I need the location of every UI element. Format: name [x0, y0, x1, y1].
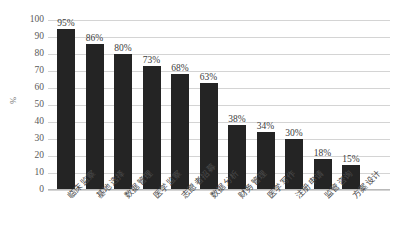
- bar-slot: 18%: [309, 20, 338, 190]
- x-label-slot: 监管咨询: [309, 192, 338, 250]
- bar-slot: 80%: [109, 20, 138, 190]
- plot-area: 95%86%80%73%68%63%38%34%30%18%15%: [48, 20, 390, 190]
- y-axis-tick: 30: [18, 134, 44, 144]
- y-axis-tick: 70: [18, 66, 44, 76]
- bar-slot: 34%: [252, 20, 281, 190]
- x-label-slot: 临床监察: [52, 192, 81, 250]
- bar-slot: 38%: [223, 20, 252, 190]
- bar-series: 95%86%80%73%68%63%38%34%30%18%15%: [48, 20, 390, 190]
- x-label-slot: 数据分析: [195, 192, 224, 250]
- bar-slot: 95%: [52, 20, 81, 190]
- x-label-slot: 注册申请: [280, 192, 309, 250]
- y-axis-title: %: [9, 90, 18, 112]
- y-axis-tick: 20: [18, 151, 44, 161]
- bar-value-label: 15%: [331, 154, 371, 164]
- x-label-slot: 医学监察: [138, 192, 167, 250]
- y-axis-tick-labels: 1009080706050403020100: [18, 20, 44, 190]
- x-label-slot: 医学写作: [252, 192, 281, 250]
- y-axis-tick: 40: [18, 117, 44, 127]
- y-axis-tick: 50: [18, 100, 44, 110]
- bar-chart: % 1009080706050403020100 95%86%80%73%68%…: [0, 0, 404, 252]
- x-label-slot: 财务管理: [223, 192, 252, 250]
- x-axis-category-labels: 临床监察基地选择数据管理医学监察志愿者招募数据分析财务管理医学写作注册申请监管咨…: [48, 192, 390, 252]
- bar-slot: 73%: [138, 20, 167, 190]
- y-axis-tick: 10: [18, 168, 44, 178]
- bar-slot: 68%: [166, 20, 195, 190]
- bar-slot: 15%: [337, 20, 366, 190]
- x-label-slot: 数据管理: [109, 192, 138, 250]
- x-label-slot: 志愿者招募: [166, 192, 195, 250]
- x-label-slot: 方案设计: [337, 192, 366, 250]
- y-axis-tick: 0: [18, 185, 44, 195]
- bar[interactable]: [86, 44, 104, 190]
- bar[interactable]: [57, 29, 75, 191]
- y-axis-tick: 100: [18, 15, 44, 25]
- y-axis-tick: 80: [18, 49, 44, 59]
- bar-slot: 30%: [280, 20, 309, 190]
- x-label-slot: 基地选择: [81, 192, 110, 250]
- y-axis-tick: 60: [18, 83, 44, 93]
- y-axis-tick: 90: [18, 32, 44, 42]
